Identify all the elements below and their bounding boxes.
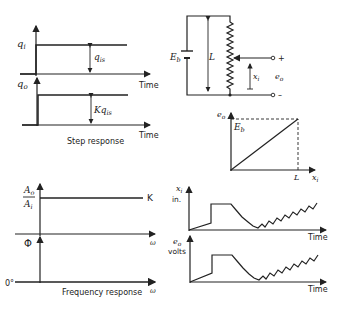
junction-dot: [228, 93, 231, 96]
output-amplitude-label: Kqis: [93, 105, 113, 117]
xi-axis-label: xi: [312, 173, 319, 183]
minus-terminal: [271, 93, 275, 97]
length-label: L: [208, 52, 215, 62]
resistor: [227, 20, 233, 95]
gain-label: K: [147, 193, 154, 203]
input-step-signal: [20, 45, 127, 74]
potentiometer-diagram: qi qis Time qo Kqis Time Step response E…: [0, 0, 339, 310]
time-label: Time: [138, 81, 159, 90]
phase-label: Φ: [24, 238, 32, 249]
xi-label: xi: [176, 184, 183, 194]
l-tick-label: L: [293, 173, 299, 182]
frequency-response-panel: Ao Ai K ω Φ 0° ω Frequency response: [5, 184, 156, 297]
frequency-response-caption: Frequency response: [62, 288, 142, 297]
step-response-caption: Step response: [67, 137, 124, 146]
potentiometer-circuit: Eb L + – xi eo: [169, 16, 285, 100]
battery-label: Eb: [169, 52, 181, 64]
top-wire: [187, 16, 230, 51]
plus-sign: +: [278, 54, 285, 63]
plus-terminal: [271, 56, 275, 60]
time-label: Time: [307, 233, 328, 242]
output-label: qo: [17, 78, 28, 91]
step-response-panel: qi qis Time qo Kqis Time Step response: [17, 26, 159, 146]
output-step-signal: [22, 95, 128, 125]
time-label: Time: [138, 131, 159, 140]
eb-label: Eb: [233, 122, 245, 134]
input-amplitude-label: qis: [94, 52, 106, 64]
eo-axis-label: eo: [217, 110, 226, 120]
time-label: Time: [307, 285, 328, 294]
output-voltage-label: eo: [275, 72, 284, 82]
phase-zero-label: 0°: [5, 279, 14, 288]
eo-waveform: [190, 255, 318, 282]
xi-waveform: [189, 203, 317, 230]
displacement-label: xi: [253, 72, 260, 82]
omega-label: ω: [150, 287, 156, 295]
time-plots-panel: xi in. Time eo volts Time: [168, 184, 328, 294]
amplitude-den: Ai: [23, 199, 33, 211]
static-characteristic-panel: eo Eb L xi: [217, 110, 319, 183]
amplitude-num: Ao: [23, 185, 35, 197]
xi-unit: in.: [172, 195, 181, 204]
eo-label: eo: [173, 237, 182, 247]
input-label: qi: [17, 38, 26, 51]
omega-label: ω: [150, 239, 156, 247]
eo-unit: volts: [168, 247, 186, 256]
minus-sign: –: [278, 91, 282, 100]
